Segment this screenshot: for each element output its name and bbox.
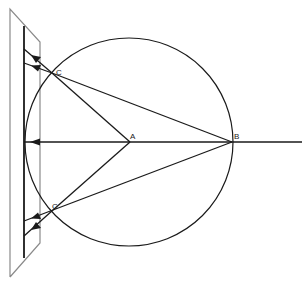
lower-rays: [24, 142, 232, 236]
label-A: A: [130, 132, 136, 141]
arrowhead-icon: [30, 139, 40, 146]
label-B: B: [234, 132, 239, 141]
upper-rays: [24, 49, 232, 142]
label-C-lower: C: [52, 202, 58, 211]
label-C-upper: C: [56, 68, 62, 77]
reflection-diagram: A B C C: [0, 0, 307, 285]
